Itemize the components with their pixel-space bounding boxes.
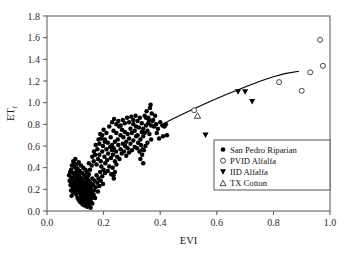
data-point bbox=[127, 136, 132, 141]
data-point bbox=[87, 172, 92, 177]
data-point bbox=[122, 149, 127, 154]
data-point bbox=[102, 139, 107, 144]
data-point bbox=[107, 124, 112, 129]
data-point bbox=[98, 132, 103, 137]
data-point bbox=[114, 162, 119, 167]
data-point bbox=[125, 116, 130, 121]
data-point bbox=[110, 165, 115, 170]
data-point bbox=[111, 152, 116, 157]
data-point bbox=[116, 143, 121, 148]
y-tick-label: 0.2 bbox=[28, 184, 41, 195]
data-point bbox=[157, 136, 162, 141]
y-tick-label: 0.4 bbox=[28, 162, 41, 173]
data-point bbox=[67, 173, 72, 178]
data-point bbox=[93, 196, 98, 201]
data-point bbox=[299, 88, 304, 93]
legend-label[interactable]: IID Alfalfa bbox=[230, 167, 268, 177]
data-point bbox=[135, 133, 140, 138]
data-point bbox=[93, 143, 98, 148]
y-tick-label: 1.6 bbox=[28, 32, 41, 43]
data-point bbox=[121, 135, 126, 140]
data-point bbox=[68, 183, 73, 188]
data-point bbox=[96, 189, 101, 194]
data-point bbox=[123, 121, 128, 126]
legend-marker-filled-circle-icon bbox=[221, 147, 226, 152]
data-point bbox=[90, 201, 95, 206]
x-tick-label: 0.4 bbox=[154, 217, 167, 228]
legend-marker-open-circle-icon bbox=[221, 158, 226, 163]
chart-figure: 0.00.20.40.60.81.00.00.20.40.60.81.01.21… bbox=[0, 0, 349, 253]
data-point bbox=[141, 161, 146, 166]
x-tick-label: 0.8 bbox=[267, 217, 280, 228]
legend-label[interactable]: San Pedro Riparian bbox=[230, 145, 298, 155]
data-point bbox=[128, 126, 133, 131]
data-point bbox=[125, 132, 129, 137]
data-point bbox=[118, 123, 123, 128]
data-point bbox=[111, 173, 116, 178]
data-point bbox=[144, 109, 149, 114]
data-point bbox=[146, 121, 151, 126]
data-point bbox=[91, 159, 96, 164]
data-point bbox=[131, 118, 136, 123]
data-point bbox=[161, 134, 166, 139]
y-tick-label: 1.2 bbox=[28, 76, 41, 87]
data-point bbox=[69, 194, 74, 199]
data-point bbox=[153, 113, 158, 118]
data-point bbox=[116, 119, 121, 124]
y-tick-label: 1.8 bbox=[28, 11, 41, 22]
data-point bbox=[112, 117, 117, 122]
data-point bbox=[140, 152, 145, 157]
x-tick-label: 1.0 bbox=[324, 217, 337, 228]
data-point bbox=[149, 137, 154, 142]
chart-legend[interactable]: San Pedro RiparianPVID AlfalfaIID Alfalf… bbox=[214, 140, 330, 190]
y-tick-label: 1.0 bbox=[28, 97, 41, 108]
data-point bbox=[69, 188, 74, 193]
data-point bbox=[132, 129, 137, 134]
data-point bbox=[138, 157, 143, 162]
data-point bbox=[139, 143, 144, 148]
data-point bbox=[73, 157, 78, 162]
data-point bbox=[148, 103, 153, 108]
data-point bbox=[67, 178, 72, 183]
data-point bbox=[127, 120, 132, 125]
data-point bbox=[100, 149, 105, 154]
x-tick-label: 0.2 bbox=[97, 217, 110, 228]
data-point bbox=[114, 149, 119, 154]
y-tick-label: 0.6 bbox=[28, 141, 41, 152]
scatter-plot-svg: 0.00.20.40.60.81.00.00.20.40.60.81.01.21… bbox=[0, 0, 349, 253]
chart-background bbox=[0, 0, 349, 253]
data-point bbox=[114, 131, 119, 136]
x-axis-label: EVI bbox=[180, 235, 198, 246]
data-point bbox=[143, 144, 148, 149]
y-tick-label: 1.4 bbox=[28, 54, 41, 65]
legend-label[interactable]: TX Cotton bbox=[230, 178, 268, 188]
data-point bbox=[108, 135, 113, 140]
data-point bbox=[117, 157, 122, 162]
data-point bbox=[164, 122, 169, 127]
data-point bbox=[308, 70, 313, 75]
data-point bbox=[320, 63, 325, 68]
data-point bbox=[147, 132, 152, 137]
data-point bbox=[104, 131, 109, 136]
data-point bbox=[138, 116, 143, 121]
data-point bbox=[133, 113, 138, 118]
data-point bbox=[131, 138, 136, 143]
data-point bbox=[192, 108, 197, 113]
data-point bbox=[144, 116, 149, 121]
data-point bbox=[154, 122, 159, 127]
data-point bbox=[103, 171, 108, 176]
data-point bbox=[86, 203, 91, 208]
data-point bbox=[125, 146, 129, 151]
x-tick-label: 0.0 bbox=[41, 217, 54, 228]
data-point bbox=[318, 37, 323, 42]
data-point bbox=[88, 168, 93, 173]
legend-label[interactable]: PVID Alfalfa bbox=[230, 156, 276, 166]
y-tick-label: 0.0 bbox=[28, 206, 41, 217]
data-point bbox=[165, 133, 170, 138]
data-point bbox=[92, 149, 97, 154]
data-point bbox=[87, 161, 92, 166]
data-point bbox=[116, 137, 121, 142]
data-point bbox=[90, 155, 95, 160]
data-point bbox=[277, 80, 282, 85]
data-point bbox=[101, 182, 106, 187]
